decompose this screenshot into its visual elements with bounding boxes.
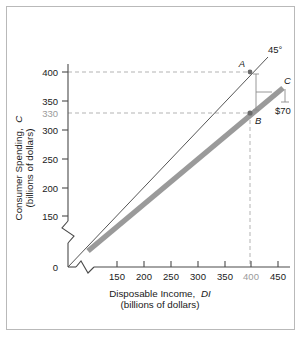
y-axis-title-italic: C	[13, 115, 24, 123]
x-tick-label-150: 150	[109, 271, 125, 282]
y-tick-label-330: 330	[42, 108, 58, 119]
y-tick-label-150: 150	[42, 211, 58, 222]
x-axis-subtitle: (billions of dollars)	[121, 299, 200, 310]
y-axis-title-main: Consumer Spending,	[13, 128, 24, 220]
x-tick-label-400: 400	[243, 271, 259, 282]
y-tick-label-350: 350	[42, 96, 58, 107]
label-point-C: C	[284, 75, 291, 86]
y-tick-label-200: 200	[42, 183, 58, 194]
y-axis-subtitle: (billions of dollars)	[24, 129, 35, 208]
x-axis-title: Disposable Income, DI	[109, 288, 211, 299]
figure-container: 400 350 330 300 250 200 150 0 150 200 25…	[0, 0, 304, 338]
x-tick-label-200: 200	[136, 271, 152, 282]
label-gap-70: $70	[275, 105, 291, 116]
consumption-function-line	[88, 88, 283, 251]
origin-label: 0	[53, 262, 58, 273]
label-point-B: B	[255, 115, 262, 126]
y-axis-title: Consumer Spending, C	[13, 115, 24, 221]
chart-svg: 400 350 330 300 250 200 150 0 150 200 25…	[0, 0, 304, 338]
line-45-degree	[68, 57, 268, 267]
x-tick-label-350: 350	[217, 271, 233, 282]
x-axis-title-main: Disposable Income,	[109, 288, 195, 299]
y-tick-label-400: 400	[42, 67, 58, 78]
x-tick-label-450: 450	[270, 271, 286, 282]
x-axis-title-italic: DI	[201, 288, 211, 299]
point-B-marker	[247, 110, 252, 115]
y-axis-break	[62, 221, 74, 243]
x-axis-break	[76, 261, 94, 273]
x-tick-label-300: 300	[190, 271, 206, 282]
y-tick-label-300: 300	[42, 125, 58, 136]
label-point-A: A	[238, 58, 245, 69]
point-A-marker	[248, 70, 253, 75]
y-tick-label-250: 250	[42, 154, 58, 165]
x-tick-label-250: 250	[163, 271, 179, 282]
label-45-degree: 45°	[268, 44, 283, 55]
